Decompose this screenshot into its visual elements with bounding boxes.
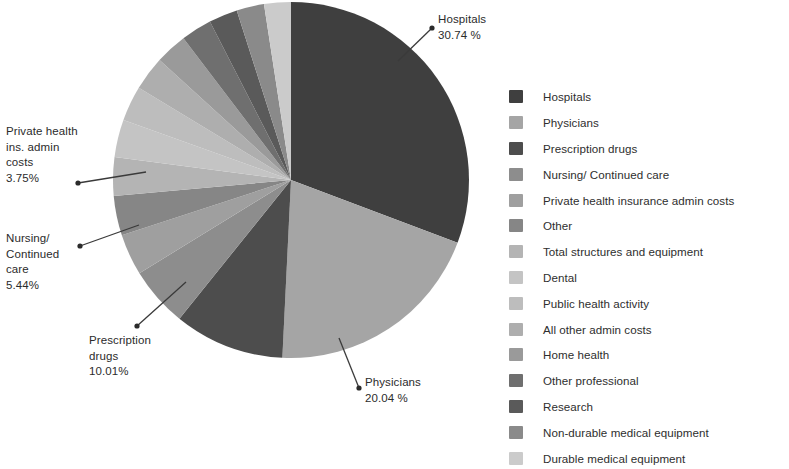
legend-item-label: Other — [543, 219, 572, 232]
legend-item-label: Physicians — [543, 116, 599, 129]
legend-color-swatch — [509, 271, 523, 284]
legend-item-label: Home health — [543, 348, 609, 361]
legend-color-swatch — [509, 374, 523, 387]
legend-color-swatch — [509, 348, 523, 361]
legend-color-swatch — [509, 219, 523, 232]
legend-item-label: Prescription drugs — [543, 142, 637, 155]
legend-item[interactable]: Dental — [509, 265, 787, 291]
legend-item-label: All other admin costs — [543, 323, 652, 336]
legend-item-label: Research — [543, 400, 593, 413]
legend-item[interactable]: Other — [509, 213, 787, 239]
callout-nursing: Nursing/ Continued care 5.44% — [6, 231, 59, 293]
legend-color-swatch — [509, 245, 523, 258]
legend-color-swatch — [509, 323, 523, 336]
legend-item-label: Other professional — [543, 374, 639, 387]
legend-item[interactable]: Research — [509, 394, 787, 420]
legend-color-swatch — [509, 90, 523, 103]
legend-color-swatch — [509, 452, 523, 465]
legend-item[interactable]: Durable medical equipment — [509, 445, 787, 469]
legend-item[interactable]: Total structures and equipment — [509, 239, 787, 265]
legend-item[interactable]: All other admin costs — [509, 316, 787, 342]
legend-color-swatch — [509, 194, 523, 207]
legend-item[interactable]: Non-durable medical equipment — [509, 419, 787, 445]
legend-item[interactable]: Home health — [509, 342, 787, 368]
callout-prescription-drugs: Prescription drugs 10.01% — [89, 333, 151, 380]
legend-item[interactable]: Prescription drugs — [509, 136, 787, 162]
legend-item-label: Non-durable medical equipment — [543, 426, 709, 439]
legend-item-label: Hospitals — [543, 90, 591, 103]
leader-dot-physicians — [356, 385, 361, 390]
legend-color-swatch — [509, 142, 523, 155]
legend-item-label: Private health insurance admin costs — [543, 194, 734, 207]
legend-item[interactable]: Public health activity — [509, 290, 787, 316]
legend-item-label: Dental — [543, 271, 577, 284]
legend-item[interactable]: Private health insurance admin costs — [509, 187, 787, 213]
legend-item-label: Nursing/ Continued care — [543, 168, 669, 181]
legend-item-label: Durable medical equipment — [543, 452, 685, 465]
pie-slices-group — [113, 2, 469, 358]
callout-physicians: Physicians 20.04 % — [365, 375, 421, 406]
leader-dot-nursing — [77, 243, 82, 248]
chart-legend: HospitalsPhysiciansPrescription drugsNur… — [509, 84, 787, 469]
legend-item[interactable]: Nursing/ Continued care — [509, 161, 787, 187]
legend-color-swatch — [509, 116, 523, 129]
legend-color-swatch — [509, 168, 523, 181]
callout-private-admin: Private health ins. admin costs 3.75% — [6, 124, 78, 186]
legend-item-label: Total structures and equipment — [543, 245, 703, 258]
legend-item[interactable]: Other professional — [509, 368, 787, 394]
leader-dot-prescription-drugs — [134, 323, 139, 328]
legend-item[interactable]: Physicians — [509, 110, 787, 136]
legend-color-swatch — [509, 400, 523, 413]
legend-color-swatch — [509, 297, 523, 310]
callout-hospitals: Hospitals 30.74 % — [438, 12, 486, 43]
leader-dot-hospitals — [429, 25, 434, 30]
legend-color-swatch — [509, 426, 523, 439]
legend-item-label: Public health activity — [543, 297, 649, 310]
legend-item[interactable]: Hospitals — [509, 84, 787, 110]
